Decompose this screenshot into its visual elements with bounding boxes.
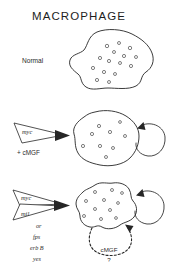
granule — [94, 191, 97, 194]
granule — [108, 81, 111, 84]
granule — [90, 132, 93, 135]
cmgf-dashed-loop: cMGF ? — [89, 225, 133, 264]
granule — [98, 56, 101, 59]
alternate-oncogene-list: or fps erb B yes — [30, 222, 44, 262]
gene-label: mil — [21, 210, 29, 217]
granule — [102, 70, 105, 73]
granule — [113, 51, 116, 54]
row-label-normal: Normal — [22, 57, 44, 64]
myc-cmgf-macrophage-cell — [74, 111, 139, 166]
cmgf-loop-label: cMGF — [101, 246, 118, 253]
autocrine-loop-arrow-row2 — [136, 122, 165, 156]
granule — [111, 189, 114, 192]
cell-outline — [76, 183, 137, 229]
granule — [94, 208, 97, 211]
granule — [124, 135, 127, 138]
granule — [117, 202, 120, 205]
granule — [128, 46, 131, 49]
dashed-loop-arrowhead — [125, 225, 134, 233]
row-myc-mil: myc mil or fps erb B yes — [13, 183, 164, 263]
autocrine-loop-arrow-row3 — [135, 189, 164, 224]
granule — [135, 56, 138, 59]
autocrine-arrowhead — [137, 122, 146, 130]
cmgf-question-mark: ? — [107, 256, 111, 263]
oncogene-item: fps — [33, 233, 41, 240]
granule — [95, 78, 98, 81]
granule — [98, 144, 101, 147]
row-myc-cmgf: myc + cMGF — [14, 111, 165, 166]
granule — [129, 64, 132, 67]
granule — [112, 147, 115, 150]
granule — [105, 44, 108, 47]
normal-macrophage-cell — [70, 30, 154, 90]
granule — [119, 62, 122, 65]
wedge-arrowhead — [55, 130, 70, 141]
macrophage-transformation-diagram: MACROPHAGE Normal — [0, 0, 174, 270]
autocrine-arrowhead — [136, 189, 145, 197]
granule — [109, 209, 112, 212]
granule — [121, 192, 124, 195]
cell-outline — [70, 30, 154, 90]
granule — [118, 42, 121, 45]
page-title: MACROPHAGE — [32, 10, 126, 22]
granule — [107, 59, 110, 62]
gene-wedge-myc-row2: myc — [14, 123, 70, 143]
granule — [83, 215, 86, 218]
granule — [97, 124, 100, 127]
gene-label: myc — [22, 128, 32, 135]
oncogene-item: yes — [32, 255, 41, 262]
granule — [119, 121, 122, 124]
granule — [108, 130, 111, 133]
granule — [81, 144, 84, 147]
oncogene-item: erb B — [30, 244, 44, 251]
granule — [115, 217, 118, 220]
granule — [114, 73, 117, 76]
granule — [91, 66, 94, 69]
oncogene-item: or — [36, 222, 42, 229]
row-caption-cmgf: + cMGF — [17, 149, 40, 156]
row-normal: Normal — [22, 30, 153, 90]
myc-mil-macrophage-cell — [76, 183, 137, 229]
granule — [122, 54, 125, 57]
granule — [100, 218, 103, 221]
diagram-canvas: MACROPHAGE Normal — [0, 0, 174, 270]
wedge-arrowhead — [54, 200, 70, 211]
gene-label: myc — [21, 194, 31, 201]
granule — [105, 156, 108, 159]
granule — [85, 200, 88, 203]
granule — [103, 199, 106, 202]
